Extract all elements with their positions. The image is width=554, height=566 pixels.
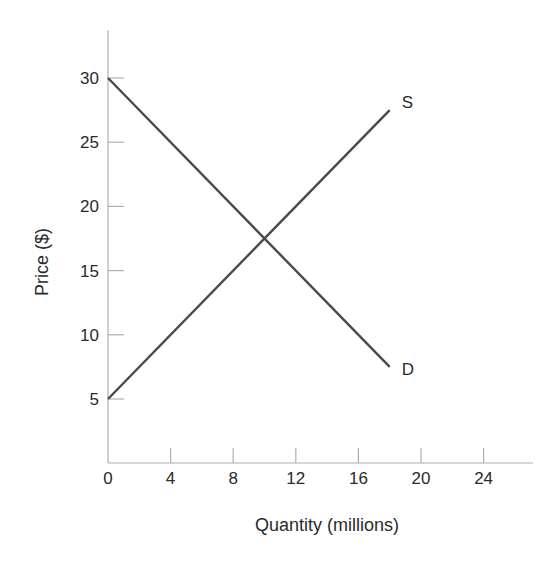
y-tick-label: 30: [80, 69, 99, 88]
series-lines: SD: [108, 78, 414, 399]
ticks: 5101520253004812162024: [80, 69, 493, 488]
y-tick-label: 25: [80, 133, 99, 152]
axes: [108, 30, 533, 463]
x-tick-label: 0: [103, 469, 112, 488]
x-tick-label: 4: [166, 469, 175, 488]
x-tick-label: 16: [349, 469, 368, 488]
series-label-s: S: [402, 93, 413, 112]
x-tick-label: 12: [286, 469, 305, 488]
x-tick-label: 8: [228, 469, 237, 488]
series-label-d: D: [402, 360, 414, 379]
series-line-d: [108, 78, 390, 367]
supply-demand-chart: 5101520253004812162024 SD Quantity (mill…: [0, 0, 554, 566]
y-tick-label: 10: [80, 326, 99, 345]
y-axis-title: Price ($): [32, 228, 52, 296]
y-tick-label: 15: [80, 262, 99, 281]
series-line-s: [108, 110, 390, 399]
y-tick-label: 5: [90, 390, 99, 409]
x-tick-label: 24: [474, 469, 493, 488]
x-axis-title: Quantity (millions): [255, 515, 399, 535]
y-tick-label: 20: [80, 197, 99, 216]
x-tick-label: 20: [412, 469, 431, 488]
